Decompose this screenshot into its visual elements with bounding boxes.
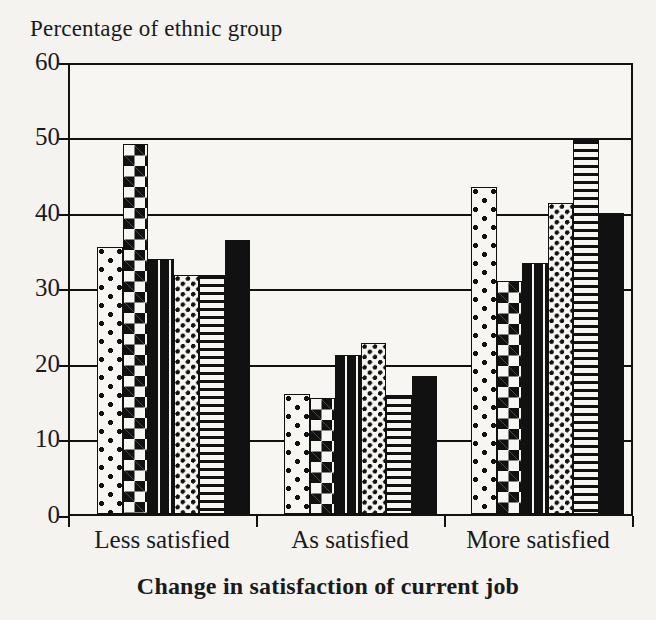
bar-less-satisfied-series-2 <box>123 144 149 514</box>
x-tick-label-as-satisfied: As satisfied <box>256 526 444 554</box>
bar-as-satisfied-series-3 <box>335 355 361 514</box>
bar-more-satisfied-series-2 <box>497 281 523 514</box>
bar-as-satisfied-series-2 <box>310 398 336 514</box>
y-tick-mark-40 <box>59 214 68 216</box>
y-tick-mark-10 <box>59 440 68 442</box>
bar-more-satisfied-series-5 <box>573 140 599 514</box>
bar-less-satisfied-series-3 <box>148 259 174 514</box>
x-tick-label-less-satisfied: Less satisfied <box>68 526 256 554</box>
bar-chart: Percentage of ethnic group 60 50 40 30 2… <box>0 0 656 620</box>
y-tick-mark-50 <box>59 138 68 140</box>
plot-area <box>68 63 633 516</box>
bar-less-satisfied-series-6 <box>225 240 251 514</box>
bar-less-satisfied-series-5 <box>199 275 225 514</box>
y-tick-label-20: 20 <box>8 350 60 378</box>
y-tick-label-50: 50 <box>8 123 60 151</box>
x-axis-title: Change in satisfaction of current job <box>0 573 656 600</box>
bar-more-satisfied-series-4 <box>548 203 574 514</box>
bar-as-satisfied-series-5 <box>386 395 412 514</box>
x-tick-mark-right <box>632 516 634 527</box>
x-tick-label-more-satisfied: More satisfied <box>444 526 632 554</box>
bar-more-satisfied-series-6 <box>599 213 625 514</box>
bar-as-satisfied-series-1 <box>284 394 310 514</box>
y-tick-label-40: 40 <box>8 199 60 227</box>
y-tick-label-30: 30 <box>8 274 60 302</box>
bar-as-satisfied-series-6 <box>412 376 438 514</box>
bars-layer <box>70 65 631 514</box>
y-tick-label-10: 10 <box>8 425 60 453</box>
y-tick-mark-30 <box>59 289 68 291</box>
y-axis-title: Percentage of ethnic group <box>30 16 282 42</box>
y-tick-mark-60 <box>59 63 68 65</box>
y-tick-mark-0 <box>59 516 68 518</box>
y-tick-mark-20 <box>59 365 68 367</box>
bar-more-satisfied-series-1 <box>471 187 497 514</box>
bar-as-satisfied-series-4 <box>361 343 387 514</box>
bar-more-satisfied-series-3 <box>522 263 548 514</box>
bar-less-satisfied-series-4 <box>174 275 200 514</box>
y-tick-label-60: 60 <box>8 48 60 76</box>
bar-less-satisfied-series-1 <box>97 247 123 514</box>
y-tick-label-0: 0 <box>8 501 60 529</box>
